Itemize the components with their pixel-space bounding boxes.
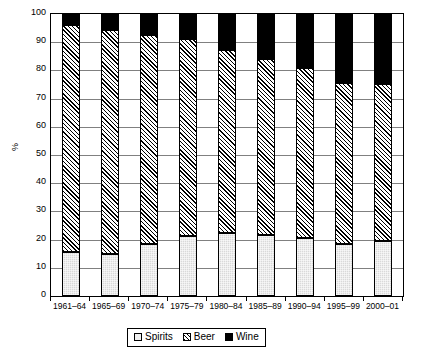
stacked-bar-chart: % 1009080706050403020100 1961–641965–691… — [0, 0, 421, 359]
bar-segment-wine[interactable] — [101, 14, 119, 30]
bar-segment-wine[interactable] — [257, 14, 275, 59]
bar-group[interactable] — [218, 14, 236, 296]
legend-item[interactable]: Wine — [225, 331, 259, 343]
y-tick-label: 100 — [20, 8, 46, 17]
beer-swatch — [183, 333, 191, 341]
bar-segment-spirits[interactable] — [101, 254, 119, 296]
y-tick-label: 60 — [20, 121, 46, 130]
y-axis-tick-labels: 1009080706050403020100 — [18, 0, 46, 359]
x-tick-label: 1965–69 — [89, 301, 128, 311]
bar-segment-beer[interactable] — [257, 59, 275, 235]
x-tick-mark — [402, 296, 403, 301]
plot-area — [50, 13, 404, 297]
legend-item-label: Wine — [236, 331, 259, 343]
bar-segment-wine[interactable] — [218, 14, 236, 50]
legend-item[interactable]: Spirits — [134, 331, 173, 343]
bar-segment-beer[interactable] — [101, 30, 119, 254]
x-tick-label: 1961–64 — [50, 301, 89, 311]
bar-segment-spirits[interactable] — [257, 235, 275, 296]
bar-segment-beer[interactable] — [296, 68, 314, 237]
bar-segment-spirits[interactable] — [374, 241, 392, 296]
y-tick-label: 30 — [20, 205, 46, 214]
legend-item[interactable]: Beer — [183, 331, 215, 343]
x-tick-label: 1985–89 — [246, 301, 285, 311]
bar-segment-spirits[interactable] — [62, 252, 80, 296]
bar-segment-wine[interactable] — [179, 14, 197, 39]
bar-segment-wine[interactable] — [62, 14, 80, 25]
bar-group[interactable] — [101, 14, 119, 296]
bar-segment-wine[interactable] — [374, 14, 392, 84]
legend-item-label: Spirits — [145, 331, 173, 343]
bar-segment-beer[interactable] — [335, 83, 353, 244]
y-tick-label: 80 — [20, 64, 46, 73]
plot-inner — [51, 14, 403, 296]
bar-segment-wine[interactable] — [335, 14, 353, 83]
x-tick-label: 1970–74 — [128, 301, 167, 311]
bar-segment-beer[interactable] — [140, 35, 158, 243]
bar-group[interactable] — [179, 14, 197, 296]
x-tick-label: 1990–94 — [285, 301, 324, 311]
bar-segment-beer[interactable] — [374, 84, 392, 241]
bar-group[interactable] — [296, 14, 314, 296]
y-tick-label: 90 — [20, 36, 46, 45]
y-tick-label: 10 — [20, 262, 46, 271]
chart-legend: SpiritsBeerWine — [127, 328, 266, 347]
bar-segment-spirits[interactable] — [179, 236, 197, 296]
bar-group[interactable] — [140, 14, 158, 296]
bar-segment-spirits[interactable] — [296, 238, 314, 296]
y-tick-label: 50 — [20, 149, 46, 158]
bar-segment-wine[interactable] — [296, 14, 314, 68]
spirits-swatch — [134, 333, 142, 341]
bar-segment-spirits[interactable] — [218, 233, 236, 296]
x-tick-label: 1995–99 — [324, 301, 363, 311]
bar-segment-beer[interactable] — [179, 39, 197, 236]
y-tick-label: 20 — [20, 234, 46, 243]
y-tick-label: 70 — [20, 93, 46, 102]
bar-group[interactable] — [335, 14, 353, 296]
bar-segment-wine[interactable] — [140, 14, 158, 35]
bar-group[interactable] — [62, 14, 80, 296]
y-tick-label: 40 — [20, 177, 46, 186]
bar-segment-spirits[interactable] — [140, 244, 158, 296]
y-tick-label: 0 — [20, 290, 46, 299]
bar-segment-beer[interactable] — [62, 25, 80, 252]
bar-group[interactable] — [374, 14, 392, 296]
bar-segment-beer[interactable] — [218, 50, 236, 234]
x-tick-label: 1975–79 — [167, 301, 206, 311]
bar-group[interactable] — [257, 14, 275, 296]
wine-swatch — [225, 333, 233, 341]
bar-segment-spirits[interactable] — [335, 244, 353, 296]
legend-item-label: Beer — [194, 331, 215, 343]
x-tick-label: 2000–01 — [363, 301, 402, 311]
x-tick-label: 1980–84 — [206, 301, 245, 311]
